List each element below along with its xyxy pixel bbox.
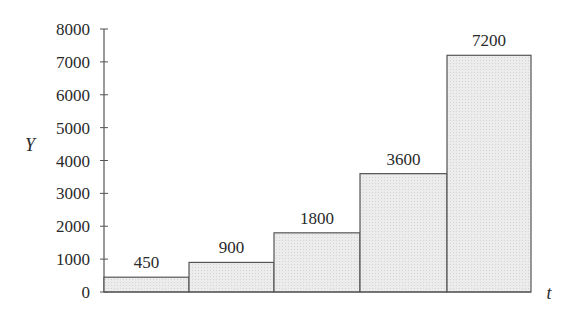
bar-4 [360,174,447,292]
y-tick-label: 7000 [56,53,90,72]
y-tick-label: 5000 [56,119,90,138]
x-axis-label: t [546,283,552,303]
y-tick-label: 3000 [56,184,90,203]
bar-chart: 010002000300040005000600070008000 450900… [0,0,565,314]
y-tick-label: 6000 [56,86,90,105]
y-axis: 010002000300040005000600070008000 [56,20,108,302]
bar-value-label: 3600 [387,150,421,169]
bars: 450900180036007200 [104,31,531,292]
bar-3 [274,233,360,292]
y-tick-label: 0 [82,283,91,302]
y-tick-label: 1000 [56,250,90,269]
bar-value-label: 1800 [300,209,334,228]
y-axis-label: Y [25,135,37,155]
bar-value-label: 900 [219,238,245,257]
y-tick-label: 2000 [56,217,90,236]
bar-value-label: 450 [134,253,160,272]
bar-value-label: 7200 [472,31,506,50]
bar-5 [447,55,531,292]
y-tick-label: 4000 [56,152,90,171]
bar-1 [104,277,189,292]
y-tick-label: 8000 [56,20,90,39]
bar-2 [189,262,274,292]
